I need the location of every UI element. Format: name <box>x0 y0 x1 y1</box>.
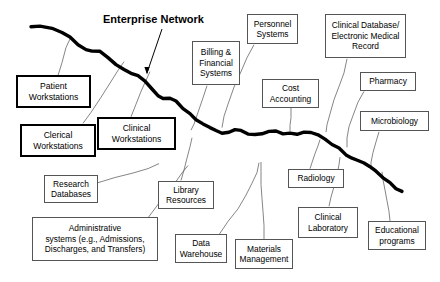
node-label-personnel-systems: Personnel Systems <box>254 19 292 40</box>
node-clerical-workstations[interactable]: Clerical Workstations <box>20 124 96 157</box>
connector-library-resources <box>181 138 192 181</box>
node-data-warehouse[interactable]: Data Warehouse <box>175 234 227 263</box>
node-patient-workstations[interactable]: Patient Workstations <box>16 75 91 108</box>
connector-data-warehouse <box>219 163 259 235</box>
node-label-clerical-workstations: Clerical Workstations <box>33 130 83 151</box>
enterprise-network-diagram: Enterprise Network Patient WorkstationsC… <box>0 0 440 282</box>
node-administrative-systems[interactable]: Administrative systems (e.g., Admissions… <box>32 217 158 261</box>
connector-clinical-database-emr <box>326 59 347 132</box>
node-label-administrative-systems: Administrative systems (e.g., Admissions… <box>45 223 146 254</box>
node-label-educational-programs: Educational programs <box>375 225 419 246</box>
node-label-clinical-database-emr: Clinical Database/ Electronic Medical Re… <box>332 20 400 51</box>
node-label-library-resources: Library Resources <box>166 185 206 206</box>
annotation-arrow-layer <box>144 29 162 75</box>
connector-cost-accounting <box>290 108 291 132</box>
node-library-resources[interactable]: Library Resources <box>158 181 214 209</box>
node-label-radiology: Radiology <box>297 173 334 183</box>
node-label-billing-financial-systems: Billing & Financial Systems <box>199 47 233 78</box>
node-clinical-database-emr[interactable]: Clinical Database/ Electronic Medical Re… <box>325 14 406 58</box>
node-label-clinical-workstations: Clinical Workstations <box>112 123 162 144</box>
node-label-pharmacy: Pharmacy <box>369 76 407 86</box>
enterprise-network-pointer <box>147 29 162 73</box>
node-billing-financial-systems[interactable]: Billing & Financial Systems <box>192 41 240 85</box>
connector-microbiology <box>371 132 379 170</box>
node-clinical-workstations[interactable]: Clinical Workstations <box>97 117 176 150</box>
node-label-microbiology: Microbiology <box>371 116 418 126</box>
node-microbiology[interactable]: Microbiology <box>360 111 429 131</box>
node-personnel-systems[interactable]: Personnel Systems <box>247 14 298 44</box>
node-educational-programs[interactable]: Educational programs <box>368 221 426 250</box>
node-label-data-warehouse: Data Warehouse <box>180 238 223 259</box>
connector-radiology <box>310 140 320 169</box>
node-clinical-laboratory[interactable]: Clinical Laboratory <box>298 207 358 238</box>
page-title: Enterprise Network <box>103 13 204 25</box>
node-label-patient-workstations: Patient Workstations <box>29 81 79 102</box>
node-radiology[interactable]: Radiology <box>288 169 344 188</box>
connector-research-databases <box>98 164 159 183</box>
node-label-research-databases: Research Databases <box>51 179 91 200</box>
node-materials-management[interactable]: Materials Management <box>235 239 293 269</box>
connector-materials-management <box>261 162 264 240</box>
node-cost-accounting[interactable]: Cost Accounting <box>262 79 319 108</box>
connector-patient-workstations <box>58 37 71 76</box>
node-label-cost-accounting: Cost Accounting <box>270 83 311 104</box>
node-label-materials-management: Materials Management <box>240 244 289 265</box>
node-pharmacy[interactable]: Pharmacy <box>360 72 416 91</box>
node-label-clinical-laboratory: Clinical Laboratory <box>308 212 348 233</box>
node-research-databases[interactable]: Research Databases <box>44 175 98 203</box>
